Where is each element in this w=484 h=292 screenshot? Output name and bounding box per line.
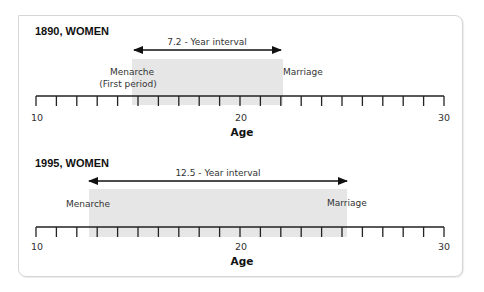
- interval-label: 12.5 - Year interval: [175, 168, 260, 178]
- age-axis: [36, 96, 444, 106]
- panel-1995: 1995, WOMEN 12.5 - Year interval Menarch…: [31, 157, 450, 267]
- tick-label-30: 30: [438, 112, 450, 123]
- timeline-figure: 1890, WOMEN 7.2 - Year interval Menarche…: [0, 0, 484, 292]
- tick-label-20: 20: [235, 112, 247, 123]
- tick-label-10: 10: [31, 241, 43, 252]
- axis-title: Age: [231, 255, 254, 267]
- panel-title: 1890, WOMEN: [35, 25, 109, 37]
- marriage-label: Marriage: [283, 67, 323, 77]
- panel-title: 1995, WOMEN: [35, 157, 109, 169]
- tick-label-30: 30: [438, 241, 450, 252]
- tick-label-10: 10: [31, 112, 43, 123]
- marriage-label: Marriage: [327, 198, 367, 208]
- interval-shade: [89, 189, 347, 237]
- menarche-label: Menarche: [110, 67, 155, 77]
- interval-label: 7.2 - Year interval: [167, 37, 247, 47]
- axis-title: Age: [231, 126, 254, 138]
- tick-label-20: 20: [235, 241, 247, 252]
- age-axis: [36, 227, 444, 237]
- menarche-sublabel: (First period): [99, 79, 157, 89]
- menarche-label: Menarche: [66, 199, 111, 209]
- panel-1890: 1890, WOMEN 7.2 - Year interval Menarche…: [31, 25, 450, 138]
